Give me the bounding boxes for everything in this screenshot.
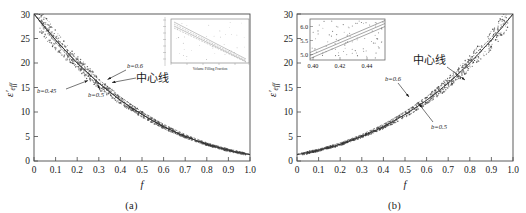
- inset-a: Volume Filling Fraction: [163, 17, 249, 71]
- y-tick-label: 25: [21, 34, 31, 44]
- inset-y-tick-labels: 5.0 5.5 6.0: [300, 23, 308, 58]
- y-tick-label: 30: [21, 10, 31, 20]
- x-tick-labels: 0 0.1 0.2 0.3 0.4 0.5 0.6 0.7 0.8 0.9 1.…: [295, 165, 520, 175]
- annotation-b-0.6: b=0.6: [127, 62, 144, 69]
- inset-x-tick-labels: 0.40 0.42 0.44: [308, 62, 373, 69]
- y-tick-labels: 0 5 10 15 20 25 30: [21, 10, 31, 167]
- inset-x-axis-label: Volume Filling Fraction: [193, 67, 228, 71]
- x-tick-label: 1.0: [507, 165, 519, 175]
- y-tick-label: 20: [284, 58, 294, 68]
- annotation-center-line: 中心线: [136, 71, 169, 85]
- inset-y-tick-label: 6.0: [300, 23, 308, 30]
- panel-b-plot: 0 5 10 15 20 25 30: [263, 0, 526, 190]
- y-tick-label: 25: [284, 34, 294, 44]
- y-tick-label: 15: [21, 83, 31, 93]
- x-axis-ticks: [34, 157, 250, 161]
- y-tick-label: 20: [21, 58, 31, 68]
- y-axis-label: ε′eff: [4, 82, 17, 97]
- x-tick-label: 0.7: [442, 165, 454, 175]
- x-tick-label: 0.1: [50, 165, 62, 175]
- annotation-b-0.5: b=0.5: [431, 123, 448, 130]
- x-tick-label: 0.8: [464, 165, 476, 175]
- y-tick-label: 5: [288, 132, 293, 142]
- annotation-leaders: [66, 70, 136, 92]
- inset-frame: [171, 19, 249, 63]
- annotation-b-0.5: b=0.5: [88, 91, 105, 98]
- inset-y-tick-label: 5.5: [300, 37, 308, 44]
- panel-b: 0 5 10 15 20 25 30: [263, 0, 526, 213]
- x-tick-label: 0.5: [136, 165, 148, 175]
- x-tick-label: 0.3: [356, 165, 368, 175]
- x-tick-label: 0.4: [115, 165, 127, 175]
- x-tick-label: 0.2: [334, 165, 346, 175]
- y-tick-labels: 0 5 10 15 20 25 30: [284, 10, 294, 167]
- x-axis-label: f: [404, 179, 409, 190]
- inset-x-tick-label: 0.42: [335, 62, 346, 69]
- y-tick-label: 30: [284, 10, 294, 20]
- x-tick-label: 0: [295, 165, 300, 175]
- panel-b-caption: (b): [263, 200, 526, 211]
- y-tick-label: 10: [21, 107, 31, 117]
- inset-y-tick-label: 5.0: [300, 51, 308, 58]
- x-axis-ticks: [297, 157, 513, 161]
- x-tick-label: 0.1: [313, 165, 325, 175]
- panel-a: 0 5 10 15 20 25 30: [0, 0, 263, 213]
- annotation-center-line: 中心线: [413, 53, 446, 67]
- x-tick-label: 0.6: [158, 165, 170, 175]
- y-tick-label: 0: [25, 156, 30, 166]
- inset-b: 5.0 5.5 6.0 0.40 0.42 0.44: [300, 19, 385, 69]
- inset-x-tick-label: 0.40: [308, 62, 319, 69]
- x-tick-label: 0.3: [93, 165, 105, 175]
- y-tick-label: 10: [284, 107, 294, 117]
- x-tick-label: 0.5: [399, 165, 411, 175]
- y-tick-label: 0: [288, 156, 293, 166]
- inset-x-tick-label: 0.44: [362, 62, 373, 69]
- panel-a-caption: (a): [0, 200, 263, 211]
- x-tick-label: 0.7: [179, 165, 191, 175]
- x-tick-label: 0.9: [223, 165, 235, 175]
- x-tick-label: 0.4: [378, 165, 390, 175]
- x-tick-label: 0.8: [201, 165, 213, 175]
- annotation-b-0.45: b=0.45: [37, 87, 57, 94]
- y-tick-label: 15: [284, 83, 294, 93]
- x-tick-label: 0.2: [71, 165, 83, 175]
- x-tick-label: 0: [32, 165, 37, 175]
- panel-a-plot: 0 5 10 15 20 25 30: [0, 0, 263, 190]
- x-tick-label: 1.0: [244, 165, 256, 175]
- y-tick-label: 5: [25, 132, 30, 142]
- x-tick-labels: 0 0.1 0.2 0.3 0.4 0.5 0.6 0.7 0.8 0.9 1.…: [32, 165, 257, 175]
- x-tick-label: 0.9: [486, 165, 498, 175]
- figure-root: 0 5 10 15 20 25 30: [0, 0, 526, 213]
- x-axis-label: f: [141, 179, 146, 190]
- y-axis-label: ε′eff: [267, 82, 280, 97]
- annotation-b-0.6: b=0.6: [385, 75, 402, 82]
- x-tick-label: 0.6: [421, 165, 433, 175]
